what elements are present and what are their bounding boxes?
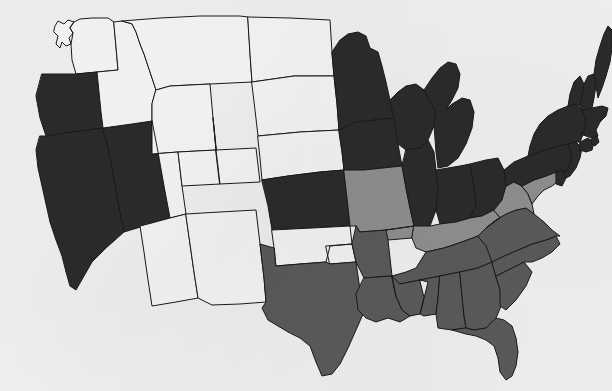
state-sd[interactable]: South Dakota (252, 76, 339, 136)
state-ok[interactable]: Oklahoma (272, 226, 356, 266)
state-ia[interactable]: Iowa (339, 118, 402, 170)
state-in[interactable]: Indiana (436, 164, 476, 224)
us-choropleth-map: WashingtonOregonCaliforniaNevadaIdahoMon… (0, 0, 612, 391)
state-nd[interactable]: North Dakota (248, 17, 334, 82)
state-or[interactable]: Oregon (36, 72, 103, 136)
state-ks[interactable]: Kansas (262, 170, 350, 230)
state-nm[interactable]: New Mexico (186, 210, 266, 305)
state-wy[interactable]: Wyoming (152, 84, 216, 154)
map-svg: WashingtonOregonCaliforniaNevadaIdahoMon… (0, 0, 612, 391)
